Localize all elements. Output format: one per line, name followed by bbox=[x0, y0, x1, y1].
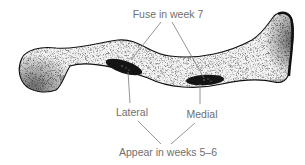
clavicle-diagram: Fuse in week 7 Lateral Medial Appear in … bbox=[0, 0, 305, 165]
appear-leader-medial bbox=[171, 123, 195, 144]
appear-leader-lateral bbox=[138, 121, 161, 144]
appear-label: Appear in weeks 5–6 bbox=[119, 146, 217, 158]
clavicle-bone bbox=[0, 0, 305, 165]
lateral-label-leader bbox=[128, 72, 130, 103]
lateral-label: Lateral bbox=[116, 106, 148, 118]
fuse-label: Fuse in week 7 bbox=[133, 8, 204, 20]
medial-label: Medial bbox=[187, 108, 218, 120]
